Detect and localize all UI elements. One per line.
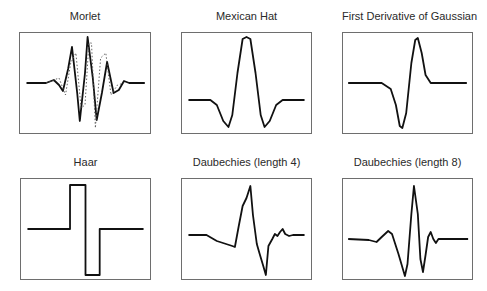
wavelet-curve [343, 33, 472, 133]
real-curve [348, 38, 467, 128]
plot-area [342, 32, 473, 134]
wavelet-curve [343, 179, 472, 279]
plot-area [19, 32, 151, 134]
panel-morlet: Morlet [19, 0, 151, 145]
panel-daubechies-8: Daubechies (length 8) [342, 146, 473, 291]
panel-daubechies-4: Daubechies (length 4) [181, 146, 312, 291]
panel-title: Daubechies (length 4) [181, 156, 312, 168]
plot-area [20, 178, 151, 280]
panel-first-derivative-gaussian: First Derivative of Gaussian [342, 0, 473, 145]
panel-title: Morlet [19, 10, 151, 22]
panel-mexican-hat: Mexican Hat [181, 0, 312, 145]
plot-area [342, 178, 473, 280]
real-curve [27, 37, 145, 121]
wavelet-curve [182, 179, 311, 279]
plot-area [181, 178, 312, 280]
panel-title: Daubechies (length 8) [342, 156, 473, 168]
wavelet-curve [21, 179, 150, 279]
panel-title: Haar [20, 156, 151, 168]
panel-haar: Haar [20, 146, 151, 291]
panel-title: First Derivative of Gaussian [342, 10, 473, 22]
real-curve [188, 186, 304, 275]
real-curve [188, 37, 304, 127]
plot-area [181, 32, 312, 134]
wavelet-curve [182, 33, 311, 133]
wavelet-curve [20, 33, 150, 133]
real-curve [348, 186, 468, 276]
panel-title: Mexican Hat [181, 10, 312, 22]
real-curve [27, 185, 143, 275]
